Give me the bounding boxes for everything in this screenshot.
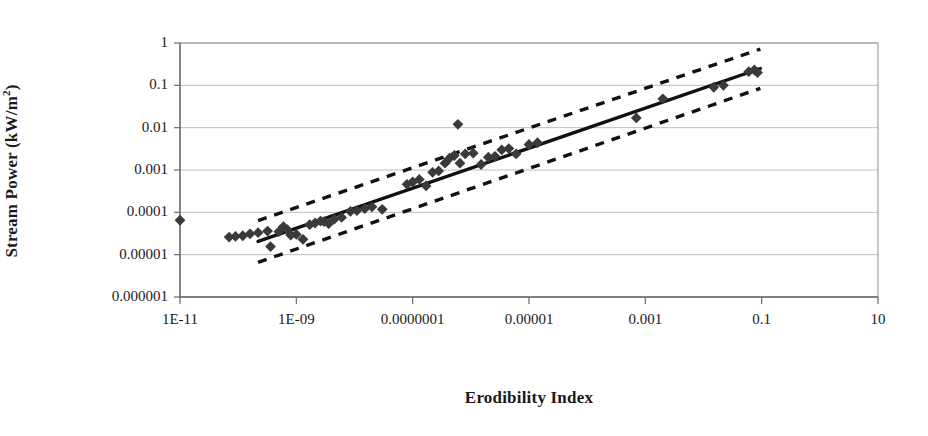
x-tick-label: 0.00001 [505, 311, 554, 328]
x-tick-label: 1E-09 [278, 311, 315, 328]
x-tick-label: 1E-11 [162, 311, 198, 328]
x-tick-label: 0.1 [752, 311, 771, 328]
x-tick-label: 0.001 [628, 311, 662, 328]
x-tick-label: 10 [871, 311, 886, 328]
x-axis-tick-labels: 1E-111E-090.00000010.000010.0010.110 [0, 0, 928, 436]
chart-figure: Stream Power (kW/m2) Erodibility Index 1… [0, 0, 928, 436]
x-tick-label: 0.0000001 [381, 311, 445, 328]
